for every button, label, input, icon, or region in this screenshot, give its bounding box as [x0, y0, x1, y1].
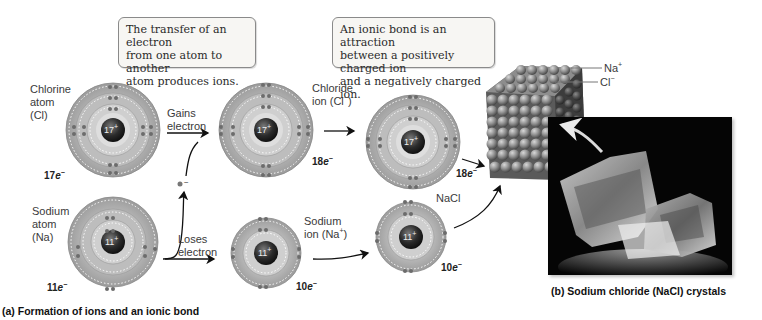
callout-line: and a negatively charged ion.	[340, 75, 487, 101]
label-line: Sodium	[32, 205, 69, 218]
label-line: Loses	[178, 233, 217, 246]
label-line: electron	[178, 246, 217, 259]
callout-line: The transfer of an electron	[126, 23, 248, 49]
na-ion-lattice-label: Na+	[604, 62, 622, 75]
chlorine-nucleus-label: 17+	[104, 124, 118, 137]
cl-ion-lattice-label: Cl−	[600, 76, 614, 89]
nacl-label: NaCl	[436, 192, 460, 205]
nacl-to-lattice-arrow-2	[454, 186, 500, 228]
label-line: (Cl)	[30, 109, 71, 122]
label-line: Chlorine	[30, 83, 71, 96]
sodium-ion-electron-count: 10e−	[296, 281, 317, 292]
label-line: Chloride	[312, 82, 353, 95]
nacl-to-lattice-arrow-1	[462, 159, 484, 166]
sodium-to-nacl-arrow	[313, 253, 368, 259]
crystal-illustration	[548, 117, 732, 275]
label-line: ion (Cl−)	[312, 95, 353, 108]
callout-ionic-bond: An ionic bond is an attraction between a…	[332, 17, 495, 68]
free-electron-charge: −	[184, 176, 189, 189]
chloride-nucleus-label: 17+	[257, 124, 271, 137]
callout-line: from one atom to another	[126, 49, 248, 75]
sodium-ion-label: Sodium ion (Na+)	[304, 215, 347, 241]
nacl-sodium-electron-count: 10e−	[441, 262, 462, 273]
sodium-atom-label: Sodium atom (Na)	[32, 205, 69, 244]
gains-electron-label: Gains electron	[167, 107, 206, 133]
nacl-chloride-electron-count: 18e−	[456, 168, 477, 179]
caption-part-a: (a) Formation of ions and an ionic bond	[2, 305, 199, 317]
label-line: electron	[167, 120, 206, 133]
label-line: atom	[32, 218, 69, 231]
callout-line: An ionic bond is an attraction	[340, 23, 487, 49]
caption-part-b: (b) Sodium chloride (NaCl) crystals	[551, 285, 726, 297]
label-line: Gains	[167, 107, 206, 120]
label-line: atom	[30, 96, 71, 109]
label-line: ion (Na+)	[304, 228, 347, 241]
callout-line: between a positively charged ion	[340, 49, 487, 75]
chlorine-electron-count: 17e−	[44, 170, 65, 181]
label-line: Sodium	[304, 215, 347, 228]
chlorine-atom-label: Chlorine atom (Cl)	[30, 83, 71, 122]
callout-line: atom produces ions.	[126, 75, 248, 88]
sodium-nucleus-label: 11+	[105, 236, 118, 249]
nacl-sodium-nucleus-label: 11+	[403, 231, 416, 244]
photo-to-lattice-arrow	[562, 125, 602, 152]
electron-transfer-arrow-top	[186, 142, 198, 176]
chloride-electron-count: 18e−	[312, 156, 333, 167]
sodium-ion-nucleus-label: 11+	[258, 247, 271, 260]
free-electron	[178, 182, 183, 187]
nacl-crystal-photo	[548, 117, 732, 275]
sodium-electron-count: 11e−	[47, 282, 67, 293]
loses-electron-label: Loses electron	[178, 233, 217, 259]
callout-electron-transfer: The transfer of an electron from one ato…	[118, 17, 256, 68]
nacl-chloride-nucleus-label: 17+	[404, 136, 418, 149]
chloride-ion-label: Chloride ion (Cl−)	[312, 82, 353, 108]
label-line: (Na)	[32, 231, 69, 244]
